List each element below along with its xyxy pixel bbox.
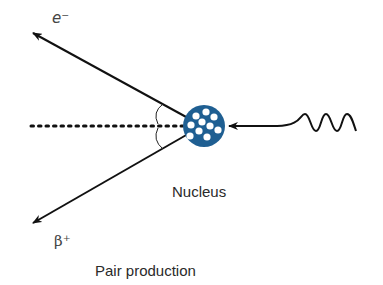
positron-label: β⁺ — [54, 232, 71, 250]
electron-label: e⁻ — [52, 9, 69, 27]
diagram-caption: Pair production — [95, 262, 196, 279]
angle-arc-lower — [156, 128, 163, 149]
incoming-photon-wave — [229, 114, 356, 131]
nucleus-label: Nucleus — [172, 183, 226, 200]
electron-track-arrow — [33, 33, 188, 118]
angle-arc-upper — [156, 104, 163, 124]
positron-track-arrow — [33, 134, 188, 223]
nucleus-icon — [183, 105, 225, 147]
